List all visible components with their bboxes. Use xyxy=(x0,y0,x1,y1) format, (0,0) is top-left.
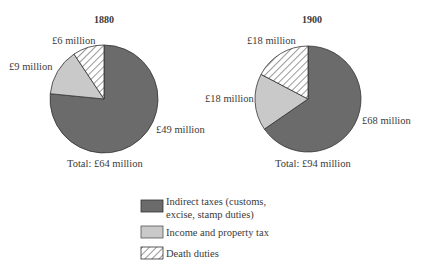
total-label-1880: Total: £64 million xyxy=(67,158,143,169)
slice-label-income-1880: £9 million xyxy=(9,61,52,72)
chart-title-1880: 1880 xyxy=(94,14,114,25)
legend-swatch-income xyxy=(141,226,163,238)
chart-title-1900: 1900 xyxy=(302,14,322,25)
slice-label-indirect-1880: £49 million xyxy=(156,124,205,135)
legend-label-indirect: Indirect taxes (customs, excise, stamp d… xyxy=(166,195,266,221)
slice-label-income-1900: £18 million xyxy=(205,93,254,104)
slice-label-death-1900: £18 million xyxy=(247,35,296,46)
legend-swatch-indirect xyxy=(141,200,163,212)
legend-swatch-death xyxy=(141,247,163,259)
legend-label-death: Death duties xyxy=(166,247,219,260)
total-label-1900: Total: £94 million xyxy=(275,158,351,169)
pie-1880 xyxy=(50,45,158,153)
pie-1900 xyxy=(255,46,361,152)
slice-label-death-1880: £6 million xyxy=(52,35,95,46)
legend-label-indirect-line1: Indirect taxes (customs, xyxy=(166,195,266,208)
legend-label-income: Income and property tax xyxy=(166,226,269,239)
slice-label-indirect-1900: £68 million xyxy=(362,115,411,126)
legend-swatches xyxy=(141,200,163,259)
legend-label-indirect-line2: excise, stamp duties) xyxy=(166,208,266,221)
